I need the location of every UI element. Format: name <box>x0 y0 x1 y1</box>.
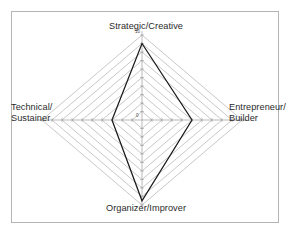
axis-label-technical-sustainer-line2: Sustainer <box>11 113 52 124</box>
axis-label-technical-sustainer-line1: Technical/ <box>11 102 52 113</box>
axis-label-entrepreneur-builder: Entrepreneur/ Builder <box>229 102 286 123</box>
axis-lines <box>38 31 247 209</box>
radial-tick-max: 10 <box>135 29 140 34</box>
axis-label-entrepreneur-builder-line2: Builder <box>229 113 286 124</box>
axis-label-technical-sustainer: Technical/ Sustainer <box>11 102 52 123</box>
axis-label-strategic-creative: Strategic/Creative <box>109 21 183 32</box>
axis-label-entrepreneur-builder-line1: Entrepreneur/ <box>229 102 286 113</box>
axis-label-organizer-improver: Organizer/Improver <box>106 203 186 214</box>
radial-tick-min: 0 <box>136 113 139 118</box>
